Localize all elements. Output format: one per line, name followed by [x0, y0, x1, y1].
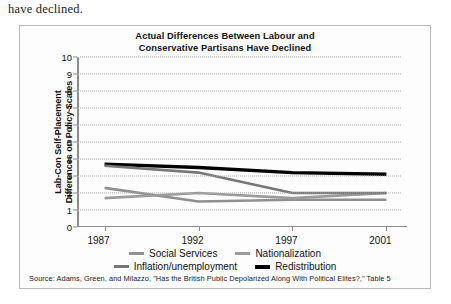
y-tick-label-9: 9: [67, 69, 72, 80]
y-tick-label-4: 4: [67, 154, 72, 165]
y-tickmark-4: [73, 159, 77, 160]
x-tickmark-2001: [386, 227, 387, 231]
gridline-y-6: [77, 125, 401, 126]
source-citation: Source: Adams, Green, and Milazzo, "Has …: [29, 274, 421, 283]
legend-row-2: Inflation/unemployment Redistribution: [54, 261, 396, 272]
legend-swatch-social-services: [129, 252, 144, 255]
legend-swatch-redistribution: [255, 265, 270, 269]
gridline-y-3: [77, 176, 401, 177]
y-tickmark-6: [73, 125, 77, 126]
y-tickmark-0: [73, 227, 77, 228]
page-body-text: have declined.: [8, 2, 83, 17]
legend-item-nationalization[interactable]: Nationalization: [235, 248, 321, 259]
y-tick-label-2: 2: [67, 188, 72, 199]
gridline-y-10: [77, 57, 401, 58]
legend-swatch-inflation-unemployment: [114, 265, 129, 268]
legend-item-social-services[interactable]: Social Services: [129, 248, 217, 259]
plot-area: Lab-Con Self-Placement Differences on Po…: [77, 57, 401, 227]
plot-canvas: 0123456789101987199219972001: [77, 57, 401, 227]
x-tick-label-1987: 1987: [87, 235, 109, 246]
x-tick-label-2001: 2001: [369, 235, 391, 246]
legend-label-social-services: Social Services: [149, 248, 217, 259]
y-tick-label-6: 6: [67, 120, 72, 131]
y-tickmark-5: [73, 142, 77, 143]
chart-legend: Social Services Nationalization Inflatio…: [20, 248, 430, 272]
x-tick-label-1997: 1997: [275, 235, 297, 246]
y-tick-label-3: 3: [67, 171, 72, 182]
y-tickmark-10: [73, 57, 77, 58]
chart-figure: Actual Differences Between Labour and Co…: [19, 25, 431, 289]
y-tickmark-1: [73, 210, 77, 211]
y-tickmark-9: [73, 74, 77, 75]
legend-label-nationalization: Nationalization: [255, 248, 321, 259]
legend-item-redistribution[interactable]: Redistribution: [255, 261, 336, 272]
legend-item-inflation-unemployment[interactable]: Inflation/unemployment: [114, 261, 237, 272]
x-tickmark-1987: [105, 227, 106, 231]
y-tick-label-5: 5: [67, 137, 72, 148]
gridline-y-8: [77, 91, 401, 92]
x-tickmark-1992: [199, 227, 200, 231]
gridline-y-2: [77, 193, 401, 194]
chart-title: Actual Differences Between Labour and Co…: [20, 31, 430, 54]
legend-label-redistribution: Redistribution: [275, 261, 336, 272]
y-tick-label-1: 1: [67, 205, 72, 216]
gridline-y-1: [77, 210, 401, 211]
chart-title-line-2: Conservative Partisans Have Declined: [20, 43, 430, 55]
y-tick-label-10: 10: [61, 52, 72, 63]
x-tick-label-1992: 1992: [181, 235, 203, 246]
gridline-y-5: [77, 142, 401, 143]
x-tickmark-1997: [292, 227, 293, 231]
legend-label-inflation-unemployment: Inflation/unemployment: [134, 261, 237, 272]
y-tick-label-0: 0: [67, 222, 72, 233]
y-tickmark-3: [73, 176, 77, 177]
y-tickmark-2: [73, 193, 77, 194]
chart-title-line-1: Actual Differences Between Labour and: [20, 31, 430, 43]
gridline-y-7: [77, 108, 401, 109]
legend-swatch-nationalization: [235, 252, 250, 255]
legend-row-1: Social Services Nationalization: [54, 248, 396, 259]
y-tickmark-8: [73, 91, 77, 92]
gridline-y-9: [77, 74, 401, 75]
y-tick-label-8: 8: [67, 86, 72, 97]
gridline-y-4: [77, 159, 401, 160]
y-tickmark-7: [73, 108, 77, 109]
y-tick-label-7: 7: [67, 103, 72, 114]
